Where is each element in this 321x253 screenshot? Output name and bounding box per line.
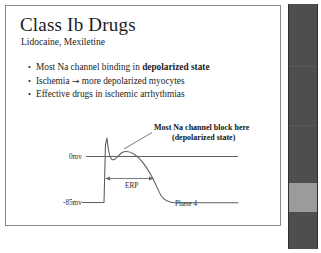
bullet-1-pre: Most Na channel binding in: [36, 62, 142, 72]
bullet-marker-icon: •: [28, 88, 36, 102]
phase4-label: Phase 4: [175, 200, 197, 208]
na-block-annotation-line2: (depolarized state): [172, 133, 235, 143]
erp-arrow-head-left: [105, 176, 110, 180]
slide-viewer: Class Ib Drugs Lidocaine, Mexiletine • M…: [0, 0, 321, 253]
zero-mv-label: 0mv: [69, 153, 82, 161]
slide-title: Class Ib Drugs: [20, 14, 136, 35]
bullet-1-bold: depolarized state: [142, 62, 209, 72]
slide-subtitle: Lidocaine, Mexiletine: [21, 37, 105, 48]
bullet-item-3: • Effective drugs in ischemic arrhythmia…: [28, 88, 268, 102]
scrollbar-thumb[interactable]: [289, 183, 317, 212]
strip-seam: [289, 66, 317, 67]
bullet-item-3-text: Effective drugs in ischemic arrhythmias: [36, 88, 268, 102]
bullet-item-1: • Most Na channel binding in depolarized…: [28, 61, 268, 75]
bullet-marker-icon: •: [28, 75, 36, 89]
slide-canvas: Class Ib Drugs Lidocaine, Mexiletine • M…: [5, 5, 281, 226]
bullet-item-2: • Ischemia → more depolarized myocytes: [28, 75, 268, 89]
bullet-2-post: more depolarized myocytes: [79, 76, 184, 86]
bullet-marker-icon: •: [28, 61, 36, 75]
annotation-leader-line: [124, 133, 152, 150]
bullet-item-1-text: Most Na channel binding in depolarized s…: [36, 61, 268, 75]
bullet-item-2-text: Ischemia → more depolarized myocytes: [36, 75, 268, 89]
action-potential-diagram: Most Na channel block here (depolarized …: [6, 114, 281, 226]
vertical-scrollbar[interactable]: [288, 4, 318, 249]
erp-label: ERP: [125, 182, 138, 190]
na-block-annotation-line1: Most Na channel block here: [154, 123, 249, 133]
bullet-list: • Most Na channel binding in depolarized…: [28, 61, 268, 102]
strip-seam: [289, 125, 317, 126]
bullet-2-pre: Ischemia: [36, 76, 72, 86]
minus85-mv-label: -85mv: [63, 199, 82, 207]
action-potential-trace: [104, 138, 238, 203]
